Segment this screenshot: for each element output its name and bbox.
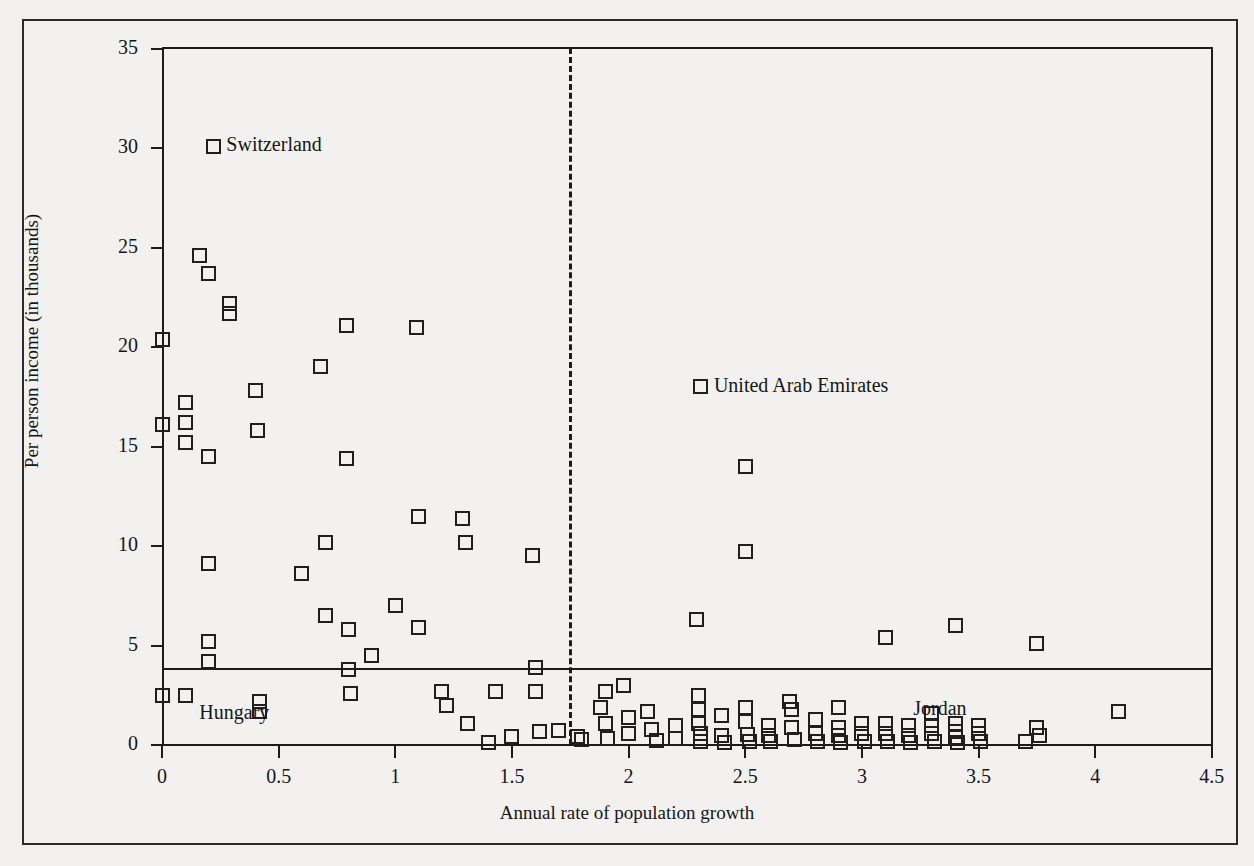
y-axis-tick-label: 10 [82, 533, 138, 556]
scatter-point [201, 654, 216, 669]
scatter-point [504, 729, 519, 744]
y-axis-tick [151, 48, 162, 50]
scatter-point [364, 648, 379, 663]
scatter-point [155, 688, 170, 703]
scatter-point [178, 395, 193, 410]
annotation-label-jordan: Jordan [913, 697, 966, 720]
scatter-point [693, 734, 708, 749]
scatter-point [250, 423, 265, 438]
scatter-point [649, 733, 664, 748]
y-axis-tick [151, 446, 162, 448]
x-axis-tick-label: 0.5 [249, 765, 309, 788]
x-axis-line [162, 744, 1213, 746]
scatter-point [341, 622, 356, 637]
scatter-point [222, 306, 237, 321]
x-axis-tick-label: 2.5 [715, 765, 775, 788]
scatter-point [201, 556, 216, 571]
scatter-point [411, 509, 426, 524]
x-axis-tick-label: 2 [599, 765, 659, 788]
y-axis-tick-label: 0 [82, 732, 138, 755]
scatter-point [528, 660, 543, 675]
scatter-point [192, 248, 207, 263]
y-axis-tick-label: 25 [82, 235, 138, 258]
scatter-point [927, 734, 942, 749]
x-axis-tick [628, 746, 630, 758]
annotation-marker [206, 139, 221, 154]
scatter-point [808, 712, 823, 727]
scatter-point [857, 734, 872, 749]
scatter-point [831, 700, 846, 715]
y-axis-tick [151, 545, 162, 547]
scatter-point [318, 608, 333, 623]
x-axis-tick [1094, 746, 1096, 758]
growth-threshold-line [569, 48, 572, 745]
scatter-point [411, 620, 426, 635]
scatter-point [763, 734, 778, 749]
scatter-point [343, 686, 358, 701]
y-axis-title: Per person income (in thousands) [21, 101, 43, 581]
x-axis-tick-label: 4.5 [1182, 765, 1242, 788]
annotation-label-hungary: Hungary [199, 701, 269, 724]
scatter-point [880, 734, 895, 749]
x-axis-tick [511, 746, 513, 758]
x-axis-tick [1211, 746, 1213, 758]
scatter-point [528, 684, 543, 699]
scatter-point [455, 511, 470, 526]
scatter-point [532, 724, 547, 739]
y-axis-tick-label: 30 [82, 135, 138, 158]
annotation-marker [693, 379, 708, 394]
scatter-point [621, 710, 636, 725]
scatter-point [810, 734, 825, 749]
x-axis-tick [394, 746, 396, 758]
scatter-point [339, 318, 354, 333]
y-axis-tick [151, 147, 162, 149]
y-axis-tick-label: 35 [82, 36, 138, 59]
scatter-point [903, 735, 918, 750]
y-axis-tick-label: 20 [82, 334, 138, 357]
scatter-point [488, 684, 503, 699]
scatter-point [593, 700, 608, 715]
scatter-point [178, 415, 193, 430]
scatter-point [1032, 728, 1047, 743]
plot-right-border [1211, 48, 1213, 746]
scatter-point [738, 544, 753, 559]
scatter-point [574, 732, 589, 747]
scatter-point [600, 731, 615, 746]
scatter-point [738, 459, 753, 474]
scatter-point [458, 535, 473, 550]
scatter-point [738, 700, 753, 715]
scatter-point [551, 723, 566, 738]
scatter-point [155, 417, 170, 432]
scatter-point [717, 735, 732, 750]
scatter-point [691, 688, 706, 703]
scatter-point [598, 684, 613, 699]
scatter-point [201, 266, 216, 281]
scatter-point [248, 383, 263, 398]
scatter-point [313, 359, 328, 374]
scatter-point [878, 630, 893, 645]
scatter-point [439, 698, 454, 713]
x-axis-tick-label: 3.5 [949, 765, 1009, 788]
x-axis-tick [161, 746, 163, 758]
scatter-point [784, 702, 799, 717]
scatter-point [616, 678, 631, 693]
scatter-point [742, 734, 757, 749]
scatter-point [1018, 734, 1033, 749]
figure-container: 05101520253035 00.511.522.533.544.5 Swit… [0, 0, 1254, 866]
annotation-label-switzerland: Switzerland [226, 133, 322, 156]
y-axis-tick [151, 247, 162, 249]
scatter-point [598, 716, 613, 731]
annotation-label-united-arab-emirates: United Arab Emirates [714, 374, 888, 397]
scatter-point [668, 731, 683, 746]
scatter-point [178, 688, 193, 703]
x-axis-tick-label: 4 [1065, 765, 1125, 788]
x-axis-tick-label: 0 [132, 765, 192, 788]
scatter-point [689, 612, 704, 627]
scatter-point [833, 735, 848, 750]
scatter-point [1029, 636, 1044, 651]
scatter-point [294, 566, 309, 581]
scatter-point [434, 684, 449, 699]
scatter-point [178, 435, 193, 450]
plot-top-border [162, 47, 1213, 49]
scatter-point [201, 634, 216, 649]
